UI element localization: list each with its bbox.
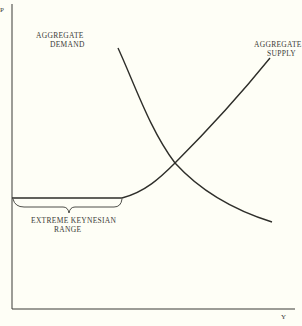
keynesian-range-label-line2: RANGE	[54, 225, 81, 234]
aggregate-demand-label-line1: AGGREGATE	[36, 31, 84, 40]
y-axis-label: P	[0, 6, 4, 14]
aggregate-supply-label-line2: SUPPLY	[267, 49, 296, 58]
aggregate-demand-label-line2: DEMAND	[50, 40, 85, 49]
aggregate-demand-curve	[118, 48, 272, 222]
x-axis-label: Y	[281, 313, 286, 321]
keynesian-range-brace	[13, 199, 122, 213]
keynesian-range-label-line1: EXTREME KEYNESIAN	[31, 216, 116, 225]
aggregate-supply-curve	[12, 58, 270, 198]
aggregate-supply-label-line1: AGGREGATE	[254, 40, 302, 49]
